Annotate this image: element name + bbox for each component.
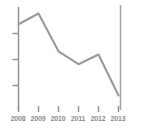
data-line-series: [19, 14, 119, 96]
x-label-2008: 2008: [11, 114, 26, 123]
y-axis-ticks: [13, 34, 19, 86]
x-label-2009: 2009: [31, 114, 46, 123]
x-label-2011: 2011: [71, 114, 85, 123]
x-label-2012: 2012: [91, 114, 106, 123]
x-axis-ticks: [19, 106, 119, 112]
line-chart: 2008 2009 2010 2011 2012 2013: [0, 0, 144, 136]
x-label-2013: 2013: [111, 114, 126, 123]
x-label-2010: 2010: [51, 114, 66, 123]
